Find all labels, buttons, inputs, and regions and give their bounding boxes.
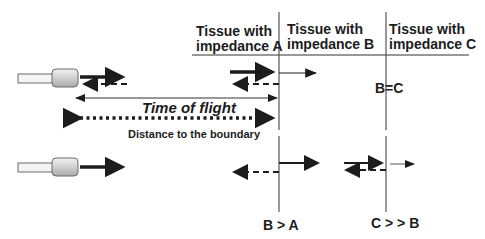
header-line: Tissue with	[196, 24, 283, 39]
header-tissue-a: Tissue with impedance A	[196, 24, 283, 54]
b-greater-a-label: B > A	[263, 218, 299, 233]
header-tissue-b: Tissue with impedance B	[287, 22, 374, 52]
time-of-flight-label: Time of flight	[142, 100, 236, 115]
transducer-icon	[18, 158, 78, 176]
c-much-greater-b-label: C > > B	[371, 216, 419, 231]
header-tissue-c: Tissue with impedance C	[389, 22, 476, 52]
b-equals-c-label: B=C	[375, 81, 403, 96]
header-line: impedance A	[196, 39, 283, 54]
header-line: impedance B	[287, 37, 374, 52]
transducer-icon	[18, 69, 78, 87]
header-line: Tissue with	[287, 22, 374, 37]
header-line: impedance C	[389, 37, 476, 52]
distance-label: Distance to the boundary	[128, 127, 260, 142]
header-line: Tissue with	[389, 22, 476, 37]
